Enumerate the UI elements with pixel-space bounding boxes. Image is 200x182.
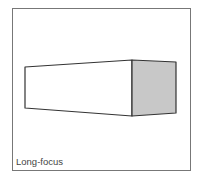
prism-end-face bbox=[132, 60, 176, 116]
prism-side-face bbox=[25, 60, 132, 116]
figure-caption: Long-focus bbox=[16, 156, 63, 167]
prism-drawing bbox=[0, 0, 200, 182]
